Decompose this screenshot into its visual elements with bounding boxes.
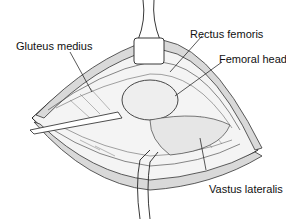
- label-gluteus-medius: Gluteus medius: [16, 40, 92, 52]
- label-vastus-lateralis: Vastus lateralis: [209, 183, 283, 195]
- label-rectus-femoris: Rectus femoris: [190, 28, 263, 40]
- anatomical-illustration: Gluteus medius Rectus femoris Femoral he…: [0, 0, 286, 219]
- label-femoral-head: Femoral head: [219, 53, 286, 65]
